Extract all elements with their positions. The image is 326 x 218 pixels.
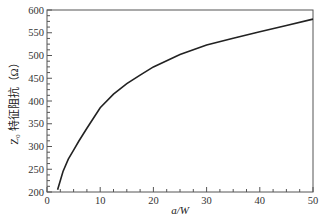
x-axis-label: a/W — [171, 204, 190, 216]
x-tick-label: 20 — [148, 195, 159, 206]
y-tick-label: 550 — [28, 27, 44, 38]
x-tick-label: 10 — [95, 195, 106, 206]
y-tick-label: 250 — [28, 164, 44, 175]
y-tick-label: 350 — [28, 118, 44, 129]
y-tick-label: 500 — [28, 50, 44, 61]
plot-frame — [47, 10, 313, 192]
x-tick-label: 50 — [308, 195, 319, 206]
x-tick-label: 30 — [201, 195, 212, 206]
y-axis-ticks: 200250300350400450500550600 — [28, 5, 52, 198]
x-tick-label: 40 — [255, 195, 266, 206]
y-tick-label: 300 — [28, 141, 44, 152]
x-tick-label: 0 — [44, 195, 49, 206]
y-tick-label: 450 — [28, 73, 44, 84]
y-tick-label: 600 — [28, 5, 44, 16]
chart: 200250300350400450500550600 01020304050 … — [0, 0, 326, 218]
y-axis-label: Z₀ 特征阻抗（Ω） — [7, 57, 20, 144]
y-tick-label: 400 — [28, 96, 44, 107]
data-curve — [58, 19, 313, 190]
y-tick-label: 200 — [28, 187, 44, 198]
